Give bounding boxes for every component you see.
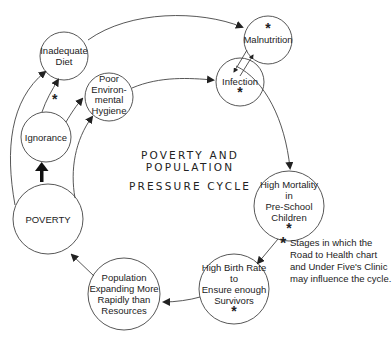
node-label-line: Diet bbox=[56, 56, 73, 67]
title-line-2: PRESSURE CYCLE bbox=[95, 180, 285, 192]
node-label-line: Ignorance bbox=[25, 132, 67, 143]
node-label-line: Malnutrition bbox=[243, 34, 292, 45]
node-label-line: Pre-School bbox=[266, 201, 313, 212]
asterisk-icon: * bbox=[280, 238, 286, 249]
node-poor-hygiene: Poor Environ- mental Hygiene bbox=[85, 71, 133, 119]
asterisk-icon: * bbox=[231, 306, 236, 317]
node-label-line: Ensure enough bbox=[202, 284, 266, 295]
node-label-line: Population bbox=[102, 272, 147, 283]
node-population: Population Expanding More Rapidly than R… bbox=[88, 258, 160, 330]
node-label-line: Poor bbox=[99, 74, 119, 85]
title-line-1: POVERTY AND POPULATION bbox=[95, 149, 285, 173]
note-line: Road to Health chart bbox=[290, 249, 392, 261]
node-label-line: Expanding More bbox=[89, 283, 158, 294]
node-label-line: Resources bbox=[101, 305, 146, 316]
note-line: Stages in which the bbox=[290, 237, 392, 249]
node-label-line: mental bbox=[95, 95, 124, 106]
node-inadequate-diet: Inadequate Diet bbox=[40, 32, 88, 80]
node-label-line: Inadequate bbox=[40, 45, 88, 56]
node-infection: Infection * bbox=[216, 72, 264, 102]
node-poverty: POVERTY bbox=[13, 184, 83, 254]
asterisk-icon: * bbox=[237, 87, 242, 98]
node-label-line: Hygiene bbox=[92, 106, 127, 117]
thick-arrow-poverty-to-ignorance bbox=[35, 162, 49, 182]
diagram-title: POVERTY AND POPULATION PRESSURE CYCLE bbox=[95, 149, 285, 192]
edge-asterisk-icon: * bbox=[52, 94, 57, 105]
node-malnutrition: * Malnutrition bbox=[244, 14, 292, 54]
node-label-line: Rapidly than bbox=[98, 294, 151, 305]
node-label-line: to bbox=[230, 273, 238, 284]
node-label-line: High Birth Rate bbox=[202, 262, 266, 273]
note-line: may influence the cycle. bbox=[290, 273, 392, 285]
node-label-line: POVERTY bbox=[25, 214, 70, 225]
node-label-line: in bbox=[285, 190, 292, 201]
note-line: and Under Five's Clinic bbox=[290, 261, 392, 273]
asterisk-icon: * bbox=[265, 23, 270, 34]
asterisk-icon: * bbox=[286, 223, 291, 234]
node-high-birth-rate: High Birth Rate to Ensure enough Survivo… bbox=[199, 254, 269, 324]
legend-note: * Stages in which the Road to Health cha… bbox=[280, 237, 392, 285]
node-ignorance: Ignorance bbox=[21, 112, 71, 162]
